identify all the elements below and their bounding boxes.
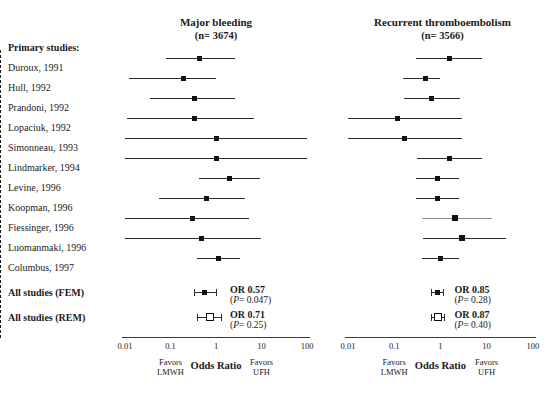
favors-lmwh-label: FavorsLMWH	[157, 357, 184, 377]
panel-title-text: Major bleeding	[136, 16, 296, 29]
forest-row	[0, 138, 554, 140]
point-estimate-marker	[395, 116, 400, 121]
x-axis-line	[345, 337, 536, 338]
confidence-interval-line	[348, 118, 462, 119]
favors-right-line2: UFH	[250, 367, 273, 377]
confidence-interval-cap	[443, 289, 444, 296]
confidence-interval-line	[403, 78, 440, 79]
forest-row	[0, 118, 554, 120]
summary-statistics-annotation: OR 0.85(P= 0.28)	[454, 284, 491, 306]
summary-marker-fixed-effects	[435, 290, 440, 295]
forest-row	[0, 78, 554, 80]
forest-row	[0, 58, 554, 60]
confidence-interval-cap	[431, 289, 432, 296]
confidence-interval-cap	[444, 314, 445, 321]
x-axis-tick-label: 1	[214, 341, 218, 351]
favors-left-line2: LMWH	[381, 367, 408, 377]
x-axis-tick-label: 100	[301, 341, 314, 351]
null-reference-line	[0, 50, 1, 338]
point-estimate-marker	[402, 136, 407, 141]
summary-statistics-annotation: OR 0.71(P= 0.25)	[230, 309, 267, 331]
summary-statistics-annotation: OR 0.57(P= 0.047)	[230, 284, 271, 306]
x-axis-tick-label: 0.01	[118, 341, 133, 351]
x-axis-tick-label: 100	[526, 341, 539, 351]
x-axis-tick-label: 0.1	[165, 341, 176, 351]
forest-row	[0, 238, 554, 240]
favors-lmwh-label: FavorsLMWH	[381, 357, 408, 377]
point-estimate-marker	[447, 56, 452, 61]
panel-title-text: Recurrent thromboembolism	[355, 16, 530, 29]
x-axis-tick-label: 10	[257, 341, 266, 351]
x-axis-line	[122, 337, 310, 338]
favors-right-line1: Favors	[250, 357, 273, 367]
forest-row	[0, 218, 554, 220]
summary-marker-random-effects	[434, 313, 442, 321]
favors-right-line1: Favors	[475, 357, 498, 367]
x-axis-tick-label: 1	[438, 341, 442, 351]
p-value-text: (P= 0.40)	[454, 320, 491, 331]
favors-ufh-label: FavorsUFH	[475, 357, 498, 377]
point-estimate-marker	[435, 196, 440, 201]
forest-row	[0, 98, 554, 100]
x-axis-title: Odds Ratio	[190, 360, 241, 371]
odds-ratio-value: OR 0.87	[454, 309, 491, 320]
x-axis-tick-label: 0.01	[341, 341, 356, 351]
panel-title-major-bleeding: Major bleeding (n= 3674)	[136, 16, 296, 42]
p-value-text: (P= 0.28)	[454, 295, 491, 306]
confidence-interval-cap	[431, 314, 432, 321]
x-axis-tick-label: 0.1	[389, 341, 400, 351]
favors-left-line1: Favors	[157, 357, 184, 367]
point-estimate-marker	[438, 256, 443, 261]
point-estimate-marker	[459, 235, 465, 241]
point-estimate-marker	[423, 76, 428, 81]
p-value-text: (P= 0.25)	[230, 320, 267, 331]
forest-plot-figure: Major bleeding (n= 3674) Recurrent throm…	[0, 0, 554, 393]
point-estimate-marker	[435, 176, 440, 181]
forest-row	[0, 158, 554, 160]
x-axis-tick-label: 10	[482, 341, 491, 351]
point-estimate-marker	[447, 156, 452, 161]
forest-row	[0, 198, 554, 200]
point-estimate-marker	[429, 96, 434, 101]
forest-row	[0, 258, 554, 260]
point-estimate-marker	[452, 215, 458, 221]
summary-statistics-annotation: OR 0.87(P= 0.40)	[454, 309, 491, 331]
forest-row	[0, 178, 554, 180]
favors-left-line1: Favors	[381, 357, 408, 367]
p-value-text: (P= 0.047)	[230, 295, 271, 306]
top-blank-strip	[0, 0, 554, 8]
favors-left-line2: LMWH	[157, 367, 184, 377]
panel-title-recurrent-thromboembolism: Recurrent thromboembolism (n= 3566)	[355, 16, 530, 42]
favors-right-line2: UFH	[475, 367, 498, 377]
odds-ratio-value: OR 0.85	[454, 284, 491, 295]
x-axis-title: Odds Ratio	[415, 360, 466, 371]
favors-ufh-label: FavorsUFH	[250, 357, 273, 377]
